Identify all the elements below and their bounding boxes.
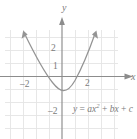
graph-canvas [0,0,137,139]
x-tick-label-neg-2: –2 [20,80,30,90]
equation-equals-sign: = [77,104,87,114]
equation-term3-constant: c [129,104,133,114]
y-tick-label-neg-2: –2 [48,107,58,117]
y-axis-arrowhead [59,17,65,25]
equation-plus-sign-2: + [119,104,129,114]
equation-annotation: y = ax2 + bx + c [73,105,133,115]
equation-plus-sign-1: + [100,104,110,114]
quadratic-graph-figure: y x 2 1 –2 –2 2 y = ax2 + bx + c [0,0,137,139]
x-axis-label: x [131,72,135,82]
y-axis-label: y [62,3,66,13]
y-tick-label-1: 1 [53,62,58,72]
y-tick-label-2: 2 [51,44,56,54]
x-tick-label-2: 2 [85,79,90,89]
